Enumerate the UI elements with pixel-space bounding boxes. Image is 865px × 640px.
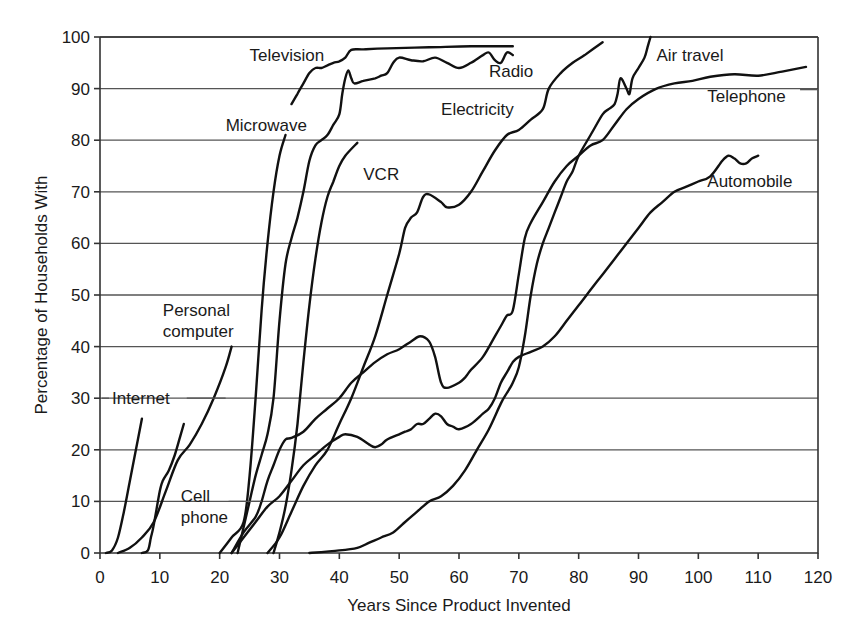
curve-automobile bbox=[232, 156, 759, 553]
curve-cell-phone bbox=[142, 424, 184, 553]
y-tick-label: 0 bbox=[81, 544, 90, 563]
x-tick-label: 10 bbox=[150, 568, 169, 587]
y-tick-label: 80 bbox=[71, 131, 90, 150]
y-tick-label: 10 bbox=[71, 492, 90, 511]
adoption-chart: 0102030405060708090100010203040506070809… bbox=[0, 0, 865, 640]
y-tick-label: 30 bbox=[71, 389, 90, 408]
label-electricity: Electricity bbox=[441, 100, 514, 119]
label-personal-computer: Personal bbox=[163, 301, 230, 320]
x-tick-label: 60 bbox=[450, 568, 469, 587]
y-tick-label: 90 bbox=[71, 80, 90, 99]
y-tick-label: 50 bbox=[71, 286, 90, 305]
x-tick-label: 80 bbox=[569, 568, 588, 587]
x-tick-label: 40 bbox=[330, 568, 349, 587]
x-tick-label: 70 bbox=[509, 568, 528, 587]
y-tick-label: 100 bbox=[62, 28, 90, 47]
label-automobile: Automobile bbox=[707, 172, 792, 191]
curve-electricity bbox=[268, 42, 603, 553]
x-tick-label: 0 bbox=[95, 568, 104, 587]
label-internet: Internet bbox=[112, 389, 170, 408]
x-tick-label: 50 bbox=[390, 568, 409, 587]
y-tick-label: 40 bbox=[71, 338, 90, 357]
curve-vcr bbox=[274, 143, 358, 553]
x-tick-label: 110 bbox=[745, 568, 772, 587]
y-tick-label: 20 bbox=[71, 441, 90, 460]
y-tick-label: 60 bbox=[71, 234, 90, 253]
curve-internet bbox=[106, 419, 142, 553]
label-radio: Radio bbox=[489, 62, 533, 81]
y-axis-title: Percentage of Households With bbox=[32, 175, 51, 414]
label-television: Television bbox=[250, 46, 325, 65]
label-air-travel: Air travel bbox=[656, 46, 723, 65]
curve-television bbox=[292, 46, 513, 104]
label-personal-computer: computer bbox=[163, 322, 234, 341]
label-cell-phone: Cell bbox=[181, 487, 210, 506]
x-axis-title: Years Since Product Invented bbox=[347, 596, 570, 615]
series-labels: InternetCellphonePersonalcomputerTelevis… bbox=[102, 46, 818, 527]
x-tick-label: 30 bbox=[270, 568, 289, 587]
x-tick-label: 120 bbox=[804, 568, 832, 587]
x-tick-label: 20 bbox=[210, 568, 229, 587]
label-cell-phone: phone bbox=[181, 508, 228, 527]
x-tick-label: 90 bbox=[629, 568, 648, 587]
x-tick-label: 100 bbox=[684, 568, 712, 587]
label-microwave: Microwave bbox=[226, 116, 307, 135]
label-telephone: Telephone bbox=[707, 87, 785, 106]
y-tick-label: 70 bbox=[71, 183, 90, 202]
label-vcr: VCR bbox=[363, 165, 399, 184]
